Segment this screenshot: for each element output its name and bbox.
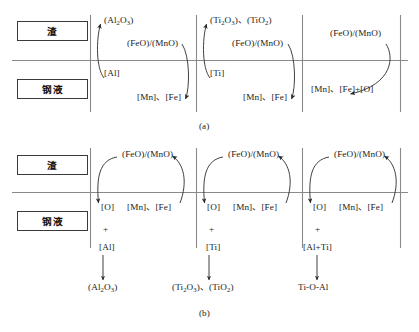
panel-caption-b: (b) <box>199 308 210 318</box>
label-b3-reductant: [Al+Ti] <box>303 243 332 252</box>
label-b3-plus: + <box>315 224 320 234</box>
label-b1-metal-products: [Mn]、[Fe] <box>127 203 171 212</box>
label-b2-product: (Ti2O3)、(TiO2) <box>172 283 234 292</box>
arrow-b1-up <box>173 156 185 203</box>
label-b1-product: (Al2O3) <box>88 283 117 292</box>
label-b3-slag-oxide: (FeO)/(MnO) <box>334 150 385 159</box>
label-a2-slag-oxide: (FeO)/(MnO) <box>232 39 283 48</box>
phase-label-slag-a: 渣 <box>47 24 58 38</box>
label-b2-metal-products: [Mn]、[Fe] <box>233 203 277 212</box>
label-b2-reductant: [Ti] <box>206 243 220 252</box>
label-b2-plus: + <box>209 224 214 234</box>
label-b3-oxygen: [O] <box>313 203 326 212</box>
label-b2-oxygen: [O] <box>207 203 220 212</box>
arrow-b2-down <box>204 157 223 203</box>
label-a2-slag-species: (Ti2O3)、(TiO2) <box>210 16 272 25</box>
arrow-b3-up <box>385 156 397 203</box>
phase-box-steel-a: 钢液 <box>17 79 88 99</box>
phase-label-slag-b: 渣 <box>47 158 58 172</box>
phase-box-slag-b: 渣 <box>17 155 88 175</box>
phase-label-steel-a: 钢液 <box>42 82 64 96</box>
label-b3-metal-products: [Mn]、[Fe] <box>339 203 383 212</box>
label-a2-metal-reductant: [Ti] <box>210 69 224 78</box>
label-a3-slag-oxide: (FeO)/(MnO) <box>330 29 381 38</box>
arrow-a1-down <box>182 44 189 99</box>
label-b1-oxygen: [O] <box>101 203 114 212</box>
label-b2-slag-oxide: (FeO)/(MnO) <box>228 150 279 159</box>
phase-label-steel-b: 钢液 <box>42 214 64 228</box>
label-a3-metal-products: [Mn]、[Fe]+[O] <box>311 85 373 94</box>
arrow-b3-down <box>310 157 329 203</box>
label-a1-slag-oxide: (FeO)/(MnO) <box>127 39 178 48</box>
panel-caption-a: (a) <box>199 121 209 131</box>
arrow-b1-down <box>98 157 117 203</box>
label-b1-plus: + <box>103 224 108 234</box>
label-a1-slag-species: (Al2O3) <box>104 16 133 25</box>
label-b1-slag-oxide: (FeO)/(MnO) <box>122 150 173 159</box>
arrow-b2-up <box>279 156 291 203</box>
label-b3-product: Ti-O-Al <box>298 283 328 292</box>
label-a2-metal-products: [Mn]、[Fe] <box>243 93 287 102</box>
arrow-a2-down <box>288 44 295 99</box>
figure-slag-metal-reaction-diagram: 渣 钢液 (Al2O3) (FeO)/(MnO) [Al] [Mn]、[Fe] … <box>0 0 419 332</box>
phase-box-slag-a: 渣 <box>17 21 88 41</box>
label-b1-reductant: [Al] <box>99 243 115 252</box>
label-a1-metal-products: [Mn]、[Fe] <box>137 93 181 102</box>
label-a1-metal-reductant: [Al] <box>104 69 120 78</box>
phase-box-steel-b: 钢液 <box>17 211 88 231</box>
